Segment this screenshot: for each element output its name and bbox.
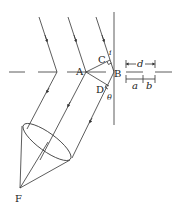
label-angle-i: i — [109, 48, 112, 57]
label-A: A — [75, 66, 84, 77]
label-F: F — [15, 193, 22, 204]
label-a: a — [132, 80, 138, 91]
label-angle-theta: θ — [107, 93, 112, 102]
label-B: B — [114, 68, 121, 79]
lens — [18, 118, 76, 167]
label-C: C — [98, 54, 106, 65]
grating-diagram: A B C D F i θ d a b — [0, 0, 178, 212]
label-D: D — [96, 84, 104, 95]
label-d: d — [137, 58, 143, 69]
focus-cone — [20, 126, 70, 188]
label-b: b — [146, 80, 152, 91]
